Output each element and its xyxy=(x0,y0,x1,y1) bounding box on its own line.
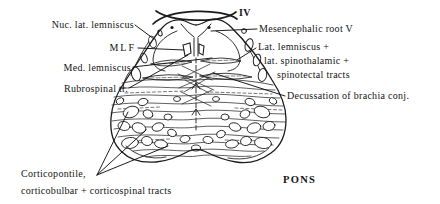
label-mesencephalic-root-v: Mesencephalic root V xyxy=(259,23,353,35)
label-pons: PONS xyxy=(283,174,316,186)
leader-mlf xyxy=(138,48,184,50)
label-nuc-lat-lemniscus: Nuc. lat. lemniscus xyxy=(52,19,134,31)
label-mlf: MLF xyxy=(109,42,136,54)
label-med-lemniscus: Med. lemniscus xyxy=(63,62,131,74)
decussation-hatching xyxy=(178,64,215,106)
label-corticopontile-line1: Corticopontile, xyxy=(21,168,86,180)
label-rubrospinal-tr: Rubrospinal tr. xyxy=(64,83,128,95)
pons-diagram: Nuc. lat. lemniscus MLF Med. lemniscus R… xyxy=(0,0,440,204)
label-decussation-brachia: Decussation of brachia conj. xyxy=(287,90,409,102)
leader-corticopontile-3 xyxy=(97,146,168,175)
mesencephalic-nucleus-dots xyxy=(170,26,210,29)
label-lat-lemniscus-line2: lat. spinothalamic + xyxy=(264,55,349,67)
label-trochlear-iv: IV xyxy=(239,7,251,19)
mlf-bundles xyxy=(183,43,204,56)
leader-nuc-lat-lemniscus xyxy=(135,25,154,39)
label-lat-lemniscus-line3: spinotectal tracts xyxy=(277,69,350,81)
label-lat-lemniscus-line1: Lat. lemniscus + xyxy=(258,41,329,53)
label-corticopontile-line2: corticobulbar + corticospinal tracts xyxy=(21,185,172,197)
